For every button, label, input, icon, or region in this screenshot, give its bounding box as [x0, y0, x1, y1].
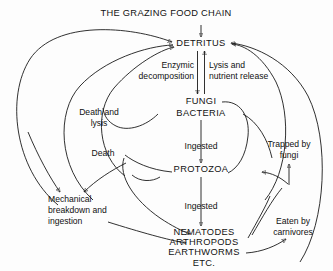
node-protozoa: PROTOZOA — [174, 164, 229, 174]
detritus-food-chain-diagram: THE GRAZING FOOD CHAIN DETRITUS Enzymic … — [0, 0, 333, 271]
node-detritus: DETRITUS — [176, 38, 225, 48]
edge-label-mechanical-line3: ingestion — [48, 216, 83, 226]
node-fungi: FUNGI — [186, 96, 217, 106]
node-earthworms: EARTHWORMS — [168, 247, 240, 257]
edge-label-death-and-lysis-line1: Death and — [79, 107, 119, 117]
edge-label-trapped-by-fungi-line1: Trapped by — [267, 139, 311, 149]
edge-label-lysis-line1: Lysis and — [209, 60, 245, 70]
edge-label-mechanical-line1: Mechanical — [48, 194, 92, 204]
edge-label-ingested-upper: Ingested — [185, 141, 218, 151]
diagram-text-layer: THE GRAZING FOOD CHAIN DETRITUS Enzymic … — [0, 0, 333, 271]
node-etc: ETC. — [193, 258, 216, 268]
diagram-title: THE GRAZING FOOD CHAIN — [100, 8, 231, 18]
edge-label-mechanical-line2: breakdown and — [48, 205, 107, 215]
node-bacteria: BACTERIA — [176, 108, 226, 118]
node-nematodes: NEMATODES — [173, 227, 234, 237]
edge-label-trapped-by-fungi-line2: fungi — [280, 150, 299, 160]
node-arthropods: ARTHROPODS — [170, 237, 239, 247]
edge-label-ingested-lower: Ingested — [185, 201, 218, 211]
edge-label-death: Death — [92, 148, 115, 158]
edge-label-enzymic-line2: decomposition — [139, 71, 195, 81]
edge-label-enzymic-line1: Enzymic — [162, 60, 195, 70]
edge-label-eaten-by-carnivores-line1: Eaten by — [276, 216, 311, 226]
edge-label-death-and-lysis-line2: lysis — [91, 118, 108, 128]
edge-label-lysis-line2: nutrient release — [209, 71, 268, 81]
edge-label-eaten-by-carnivores-line2: carnivores — [273, 227, 313, 237]
